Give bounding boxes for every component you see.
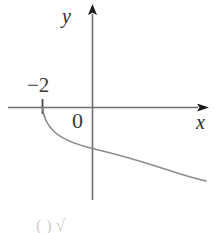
y-axis-label: y [62, 6, 71, 26]
caption-fragment-text: ( ) √ [36, 216, 65, 233]
cropped-caption-fragment: ( ) √ [0, 214, 217, 233]
x-intercept-label: −2 [27, 75, 49, 96]
x-axis-label: x [196, 112, 205, 132]
coordinate-plane [0, 0, 217, 233]
function-curve [43, 108, 206, 182]
origin-label: 0 [72, 110, 83, 132]
graph-figure: y x −2 0 ( ) √ [0, 0, 217, 233]
